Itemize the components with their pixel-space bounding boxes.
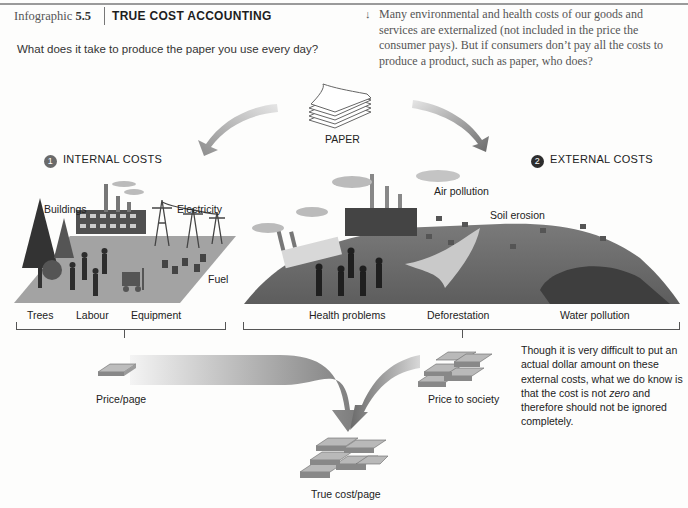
label-price-to-society: Price to society bbox=[428, 393, 499, 405]
step-2-badge: 2 bbox=[531, 155, 544, 168]
internal-costs-illustration bbox=[0, 178, 240, 308]
label-labour: Labour bbox=[76, 309, 109, 321]
label-true-cost-page: True cost/page bbox=[311, 488, 381, 500]
internal-costs-bracket bbox=[16, 322, 226, 330]
step-1-badge: 1 bbox=[44, 155, 57, 168]
label-health-problems: Health problems bbox=[309, 309, 385, 321]
external-bracket-stem bbox=[462, 330, 463, 338]
label-fuel: Fuel bbox=[208, 273, 228, 285]
label-water-pollution: Water pollution bbox=[560, 309, 630, 321]
label-buildings: Buildings bbox=[44, 203, 87, 215]
external-costs-heading: 2EXTERNAL COSTS bbox=[531, 153, 653, 168]
external-costs-bracket bbox=[243, 322, 680, 330]
money-stack-society-icon bbox=[414, 346, 494, 392]
money-stack-true-cost-icon bbox=[296, 430, 392, 484]
label-soil-erosion: Soil erosion bbox=[490, 209, 545, 221]
label-air-pollution: Air pollution bbox=[434, 185, 489, 197]
label-electricity: Electricity bbox=[177, 203, 222, 215]
money-stack-small-icon bbox=[96, 360, 140, 380]
label-price-page: Price/page bbox=[96, 393, 146, 405]
external-cost-note: Though it is very difficult to put an ac… bbox=[521, 343, 686, 429]
label-deforestation: Deforestation bbox=[427, 309, 489, 321]
internal-costs-heading: 1INTERNAL COSTS bbox=[44, 153, 162, 168]
internal-bracket-stem bbox=[124, 330, 125, 338]
label-equipment: Equipment bbox=[131, 309, 181, 321]
label-trees: Trees bbox=[27, 309, 53, 321]
